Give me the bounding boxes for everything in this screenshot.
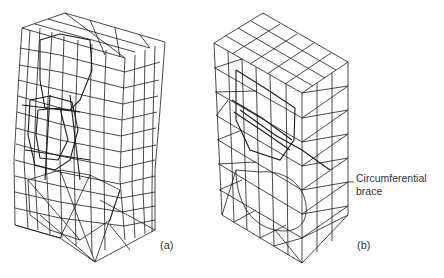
- panel-label-a: (a): [160, 239, 173, 252]
- mesh-a: [14, 13, 165, 262]
- mesh-b: [214, 13, 354, 263]
- brace-annotation-line2: brace: [356, 185, 427, 198]
- panel-label-b: (b): [357, 239, 370, 252]
- brace-annotation-line1: Circumferential: [356, 172, 427, 185]
- brace-annotation: Circumferential brace: [356, 172, 427, 198]
- figure-canvas: [0, 0, 444, 278]
